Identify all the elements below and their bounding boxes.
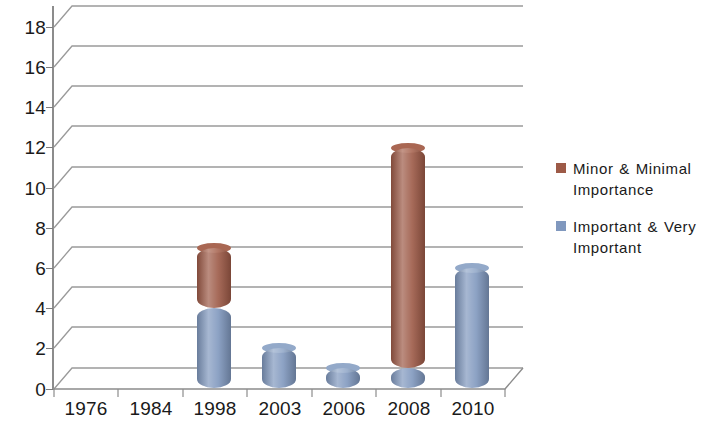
chart-legend: Minor & Minimal Importance Important & V…: [553, 158, 728, 274]
bar-1998-important: [197, 308, 231, 388]
bar-2006: [326, 368, 360, 388]
x-axis-tick-label-1976: 1976: [51, 398, 121, 420]
bar-2010-important: [455, 268, 489, 388]
x-axis-tick-label-2006: 2006: [309, 398, 379, 420]
bar-1998-minor: [197, 248, 231, 308]
legend-swatch-icon-important-very-important: [556, 221, 566, 231]
bar-2003-important: [262, 348, 296, 388]
bar-2008: [391, 148, 425, 388]
x-axis-tick-label-2010: 2010: [438, 398, 508, 420]
chart-figure: 18 16 14 12 10 8 6 4 2 0: [0, 0, 728, 428]
legend-swatch-icon-minor-minimal: [556, 163, 566, 173]
x-axis-tick-label-1998: 1998: [180, 398, 250, 420]
bar-2006-important: [326, 368, 360, 388]
x-axis: 1976 1984 1998 2003 2006 2008 2010: [0, 398, 560, 428]
bar-2010: [455, 268, 489, 388]
legend-label-important-very-important: Important & Very Important: [573, 218, 696, 256]
x-axis-tick-label-2003: 2003: [245, 398, 315, 420]
x-axis-tick-label-1984: 1984: [116, 398, 186, 420]
bar-2003: [262, 348, 296, 388]
bar-2008-minor: [391, 148, 425, 368]
bar-2008-important: [391, 368, 425, 388]
legend-label-minor-minimal: Minor & Minimal Importance: [573, 160, 692, 198]
legend-item-important-very-important[interactable]: Important & Very Important: [553, 216, 728, 258]
x-axis-tick-label-2008: 2008: [374, 398, 444, 420]
bar-1998: [197, 248, 231, 388]
legend-item-minor-minimal[interactable]: Minor & Minimal Importance: [553, 158, 728, 200]
